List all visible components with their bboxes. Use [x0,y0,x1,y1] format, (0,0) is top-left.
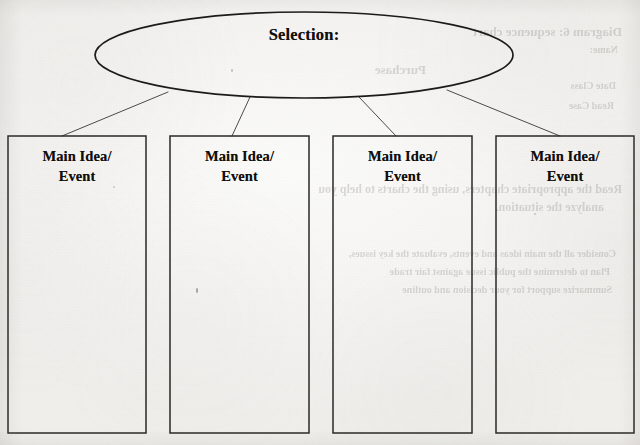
page-edge-shading [0,0,640,445]
worksheet-page: Diagram 6: sequence chartName:PurchaseDa… [0,0,640,445]
